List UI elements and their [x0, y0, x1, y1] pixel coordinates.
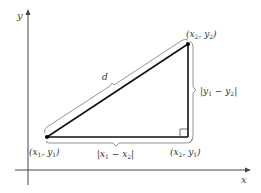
horizontal-band	[46, 139, 192, 146]
y-axis-label: y	[16, 10, 23, 21]
corner-label: (x2, y1)	[170, 147, 201, 158]
distance-label: d	[102, 72, 108, 82]
distance-formula-diagram: y x d (x2, y2) (x1, y1) (x2, y1) |x1 − x…	[0, 0, 261, 193]
vertical-distance-label: |y1 − y2|	[200, 86, 237, 97]
point-p1	[45, 135, 49, 139]
p1-label: (x1, y1)	[29, 147, 60, 158]
x-axis-label: x	[241, 174, 247, 185]
right-triangle	[45, 42, 190, 139]
x-axis-arrow-icon	[245, 168, 251, 173]
hypotenuse-band	[44, 39, 188, 133]
right-angle-marker	[180, 129, 188, 137]
braces	[44, 39, 196, 146]
point-p2	[186, 42, 190, 46]
horizontal-distance-label: |x1 − x2|	[97, 149, 134, 160]
p2-label: (x2, y2)	[186, 29, 217, 40]
hypotenuse	[47, 44, 188, 137]
vertical-band	[189, 41, 196, 143]
y-axis-arrow-icon	[26, 9, 31, 15]
